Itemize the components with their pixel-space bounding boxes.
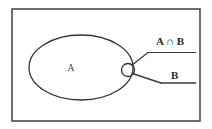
set-a-label: A [68,63,75,73]
diagram-canvas: A A ∩ B B [0,0,212,129]
intersection-label: A ∩ B [156,35,185,47]
set-intersection-diagram: A A ∩ B B [0,0,212,129]
set-b-label: B [171,69,179,81]
diagram-background [0,0,212,129]
